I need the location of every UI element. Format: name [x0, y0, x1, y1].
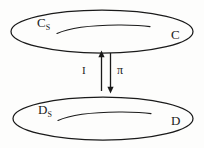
label-d-subset: DS	[38, 103, 52, 116]
label-arrow-inclusion: I	[82, 65, 86, 76]
diagram-canvas: CS C DS D I π	[0, 0, 204, 148]
bottom-subset-curve	[58, 112, 151, 121]
label-c-subset-subscript: S	[46, 23, 50, 32]
top-subset-curve	[57, 25, 150, 34]
label-arrow-projection: π	[117, 64, 123, 76]
label-category-c: C	[171, 28, 180, 41]
label-d-subset-subscript: S	[47, 110, 51, 119]
arrow-projection-down	[107, 53, 113, 94]
arrow-inclusion-up	[98, 51, 104, 92]
label-c-subset-base: C	[37, 15, 46, 30]
label-c-subset: CS	[37, 16, 50, 29]
label-category-d: D	[171, 114, 180, 127]
label-d-subset-base: D	[38, 102, 47, 117]
